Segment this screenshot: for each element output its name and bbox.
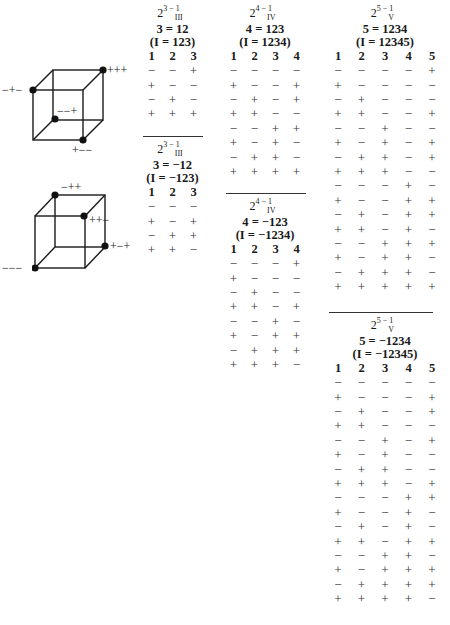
- run-row: +++−+: [326, 477, 444, 491]
- run-row: −++−: [223, 150, 307, 164]
- run-row: +−−−: [223, 271, 307, 285]
- level-cell: +: [223, 165, 244, 179]
- level-cell: −: [420, 93, 444, 107]
- run-row: +−−+−: [326, 506, 444, 520]
- design-header: 23 − 1III3 = −12(I = −123): [140, 142, 205, 185]
- level-cell: −: [373, 64, 397, 78]
- level-cell: −: [326, 150, 350, 164]
- factor-header-row: 123: [141, 49, 204, 64]
- factor-column-header: 2: [350, 361, 374, 376]
- level-cell: −: [397, 477, 421, 491]
- factor-column-header: 2: [162, 185, 183, 200]
- level-cell: −: [265, 78, 286, 92]
- vertex-label: −+−: [2, 83, 23, 97]
- level-cell: −: [350, 376, 374, 390]
- design-matrix: 12345−−−−++−−−−−+−−−++−−+−−+−−+−+−+−++−+…: [326, 49, 444, 294]
- notation-exponent: 4 − 1: [256, 197, 273, 206]
- divider: [226, 193, 306, 194]
- level-cell: +: [244, 358, 265, 372]
- level-cell: +: [373, 448, 397, 462]
- design-notation: 24 − 1IV: [223, 199, 307, 216]
- factor-column-header: 2: [162, 49, 183, 64]
- factor-header-row: 12345: [326, 361, 444, 376]
- level-cell: −: [141, 64, 162, 78]
- level-cell: −: [326, 549, 350, 563]
- level-cell: +: [397, 280, 421, 294]
- level-cell: +: [350, 462, 374, 476]
- level-cell: −: [420, 165, 444, 179]
- level-cell: −: [244, 78, 265, 92]
- level-cell: +: [373, 165, 397, 179]
- level-cell: −: [350, 179, 374, 193]
- level-cell: +: [223, 358, 244, 372]
- run-row: −+−−−: [326, 93, 444, 107]
- level-cell: −: [141, 229, 162, 243]
- level-cell: −: [373, 179, 397, 193]
- factor-column-header: 2: [244, 242, 265, 257]
- level-cell: −: [373, 390, 397, 404]
- level-cell: +: [286, 257, 307, 271]
- level-cell: +: [373, 150, 397, 164]
- level-cell: −: [326, 405, 350, 419]
- level-cell: +: [326, 222, 350, 236]
- level-cell: +: [141, 214, 162, 228]
- notation-resolution: III: [175, 13, 183, 22]
- run-row: −++−+: [326, 150, 444, 164]
- level-cell: −: [350, 64, 374, 78]
- level-cell: +: [326, 592, 350, 606]
- level-cell: +: [183, 214, 204, 228]
- level-cell: −: [286, 315, 307, 329]
- level-cell: −: [223, 64, 244, 78]
- level-cell: −: [183, 200, 204, 214]
- run-row: −−−−+: [326, 64, 444, 78]
- level-cell: −: [397, 122, 421, 136]
- run-row: −++−−: [326, 462, 444, 476]
- run-row: +−−−+: [326, 390, 444, 404]
- factor-column-header: 2: [244, 49, 265, 64]
- level-cell: +: [244, 93, 265, 107]
- cube-vertex-dot: [101, 242, 108, 249]
- level-cell: +: [373, 549, 397, 563]
- level-cell: −: [373, 208, 397, 222]
- level-cell: +: [244, 165, 265, 179]
- level-cell: −: [373, 534, 397, 548]
- level-cell: −: [397, 448, 421, 462]
- level-cell: +: [326, 78, 350, 92]
- vertex-label: −++: [61, 180, 82, 194]
- design-notation: 23 − 1III: [140, 6, 205, 23]
- factor-column-header: 5: [420, 361, 444, 376]
- design-generator: 4 = −123: [223, 216, 307, 229]
- level-cell: −: [265, 93, 286, 107]
- level-cell: +: [286, 78, 307, 92]
- run-row: ++−−: [223, 107, 307, 121]
- level-cell: −: [162, 200, 183, 214]
- level-cell: +: [420, 194, 444, 208]
- level-cell: −: [373, 194, 397, 208]
- level-cell: −: [420, 179, 444, 193]
- level-cell: −: [397, 462, 421, 476]
- level-cell: +: [326, 107, 350, 121]
- level-cell: +: [326, 280, 350, 294]
- run-row: −+++−: [326, 266, 444, 280]
- run-row: ++++: [223, 165, 307, 179]
- run-row: +++−: [223, 358, 307, 372]
- vertex-label: +++: [107, 63, 128, 77]
- factor-column-header: 3: [183, 49, 204, 64]
- divider: [143, 136, 203, 137]
- level-cell: +: [326, 251, 350, 265]
- level-cell: +: [420, 477, 444, 491]
- cube-diagram-principal-fraction: +++ −+− −−+ +−−: [0, 0, 140, 160]
- vertex-label: −−−: [2, 261, 23, 275]
- level-cell: −: [420, 520, 444, 534]
- design-header: 25 − 1V5 = −1234(I = −12345): [325, 318, 445, 361]
- level-cell: +: [397, 563, 421, 577]
- level-cell: −: [373, 506, 397, 520]
- level-cell: +: [326, 448, 350, 462]
- level-cell: +: [350, 280, 374, 294]
- level-cell: −: [183, 243, 204, 257]
- level-cell: −: [326, 376, 350, 390]
- run-row: −−+−: [223, 315, 307, 329]
- level-cell: −: [286, 150, 307, 164]
- level-cell: +: [350, 165, 374, 179]
- defining-relation: (I = 123): [140, 36, 205, 49]
